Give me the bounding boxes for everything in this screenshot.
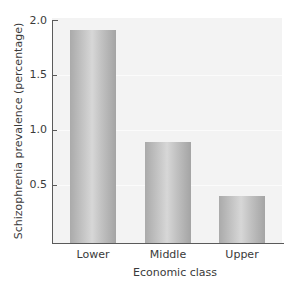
bar-chart: 2.0 1.5 1.0 0.5 Lower Middle Upper Econo… — [0, 0, 289, 291]
bar-upper — [219, 196, 265, 243]
x-tick-label-middle: Middle — [133, 248, 203, 261]
y-axis-cap — [52, 20, 58, 21]
y-axis-title: Schizophrenia prevalence (percentage) — [12, 21, 26, 241]
x-axis-title: Economic class — [110, 266, 240, 279]
y-tick — [52, 185, 57, 186]
x-tick-label-lower: Lower — [58, 248, 128, 261]
y-tick — [52, 130, 57, 131]
bar-lower — [70, 30, 116, 243]
x-tick-label-upper: Upper — [207, 248, 277, 261]
x-axis-line — [52, 243, 284, 244]
y-axis-line — [52, 20, 53, 243]
y-tick — [52, 75, 57, 76]
bar-middle — [145, 142, 191, 243]
